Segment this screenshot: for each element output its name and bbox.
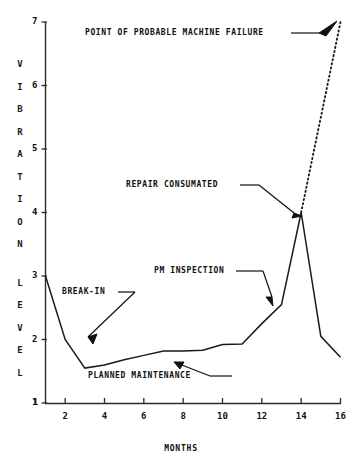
x-tick-label: 6 — [137, 412, 151, 421]
y-axis-title-letter: L — [14, 279, 26, 288]
y-axis-title-letter: V — [14, 324, 26, 333]
y-axis-title-letter: L — [14, 369, 26, 378]
leader-pm-diag — [263, 271, 272, 297]
x-tick-label: 12 — [255, 412, 269, 421]
arrowhead-planned — [174, 362, 184, 369]
y-axis-title-letter: B — [14, 105, 26, 114]
y-tick-label: 5 — [28, 144, 38, 153]
data-line-projection — [301, 22, 340, 213]
x-axis-ticks — [65, 398, 340, 404]
x-tick-label: 10 — [216, 412, 230, 421]
y-tick-label: 6 — [28, 81, 38, 90]
y-axis-title-letter: T — [14, 173, 26, 182]
x-tick-label: 16 — [334, 412, 348, 421]
leader-repair-diag — [259, 185, 294, 213]
y-tick-label: 7 — [28, 17, 38, 26]
y-axis-title-letter: E — [14, 346, 26, 355]
y-tick-label: 2 — [28, 335, 38, 344]
y-axis-title-letter: E — [14, 301, 26, 310]
arrowhead-pm — [266, 297, 273, 306]
annotation-pm-inspection: PM INSPECTION — [154, 266, 224, 275]
annotation-point-of-probable-machine-failure: POINT OF PROBABLE MACHINE FAILURE — [85, 28, 264, 37]
y-axis-title-letter: V — [14, 60, 26, 69]
axis-lines — [45, 22, 341, 404]
y-axis-title-letter: N — [14, 240, 26, 249]
vibration-level-chart: VIBRATIONLEVEL 1234567 1246810121416 POI… — [0, 0, 362, 469]
x-tick-label: 1 — [29, 398, 43, 407]
y-axis-title-letter: I — [14, 195, 26, 204]
y-tick-label: 4 — [28, 208, 38, 217]
y-axis-title-letter: I — [14, 83, 26, 92]
x-tick-label: 8 — [176, 412, 190, 421]
y-axis-title-letter: O — [14, 218, 26, 227]
y-axis-title-letter: A — [14, 150, 26, 159]
y-axis-title-letter: R — [14, 128, 26, 137]
y-tick-label: 3 — [28, 271, 38, 280]
leader-breakin-diag — [88, 292, 135, 337]
annotation-repair-consumated: REPAIR CONSUMATED — [126, 180, 218, 189]
annotation-planned-maintenance: PLANNED MAINTENANCE — [88, 371, 191, 380]
x-tick-label: 14 — [294, 412, 308, 421]
x-tick-label: 4 — [98, 412, 112, 421]
annotation-leaders — [88, 21, 337, 376]
annotation-break-in: BREAK-IN — [62, 287, 105, 296]
chart-plot-area — [0, 0, 362, 469]
arrowhead-failure — [319, 21, 337, 36]
x-axis-title: MONTHS — [0, 444, 362, 453]
x-tick-label: 2 — [58, 412, 72, 421]
